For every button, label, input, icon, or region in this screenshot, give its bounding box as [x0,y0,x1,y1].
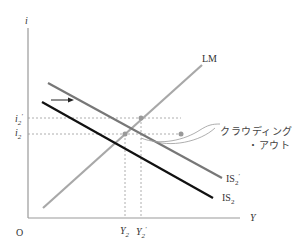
label-main: IS [222,192,231,203]
equilibrium-point [123,132,128,137]
tick-sub: 2 [18,133,22,141]
is-lm-diagram [0,0,295,248]
lm-curve [43,65,202,208]
lm-label: LM [202,54,217,64]
tick-sup: ′ [21,112,23,120]
equilibrium-point-prime [139,116,144,121]
label-sub: 2 [235,179,239,187]
tick-sup: ′ [145,225,147,233]
label-sub: 2 [231,198,235,206]
tick-sub: 2 [142,232,146,240]
is2-label: IS2 [222,193,234,206]
crowding-out-point [179,132,184,137]
is2-curve [42,102,213,198]
crowding-out-label-line2: ・アウト [248,141,290,151]
tick-i2-prime: i2′ [15,113,23,127]
origin-label: O [16,228,23,238]
right-arrow-icon [51,98,74,103]
y-axis-label: i [25,16,28,26]
tick-y2-prime: Y2′ [136,226,147,240]
crowding-out-label-line1: クラウディング [220,127,293,137]
is2-prime-curve [48,83,222,178]
tick-i2: i2 [15,128,21,141]
is2-prime-label: IS2′ [226,173,240,187]
tick-sub: 2 [126,231,130,239]
tick-sub: 2 [18,119,22,127]
x-axis-label: Y [250,213,256,223]
label-main: IS [226,173,235,184]
label-sup: ′ [238,172,240,180]
tick-y2: Y2 [120,226,129,239]
